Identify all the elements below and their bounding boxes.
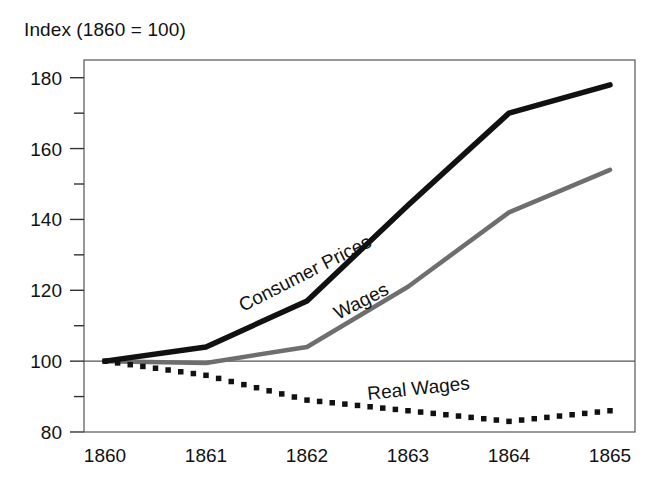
ytick-label-100: 100 bbox=[30, 351, 62, 372]
series-marker bbox=[317, 399, 323, 405]
series-marker bbox=[292, 394, 298, 400]
series-marker bbox=[393, 407, 399, 413]
xtick-label-1861: 1861 bbox=[185, 445, 227, 466]
xtick-label-1860: 1860 bbox=[84, 445, 126, 466]
series-marker bbox=[595, 409, 601, 415]
xtick-label-1865: 1865 bbox=[589, 445, 631, 466]
series-marker bbox=[115, 360, 121, 366]
series-marker bbox=[254, 385, 260, 391]
series-marker bbox=[532, 416, 538, 422]
series-marker bbox=[494, 417, 500, 423]
xtick-label-1862: 1862 bbox=[286, 445, 328, 466]
series-marker bbox=[203, 373, 209, 379]
series-marker bbox=[330, 400, 336, 406]
series-marker bbox=[266, 388, 272, 394]
series-marker bbox=[128, 362, 134, 368]
ytick-label-160: 160 bbox=[30, 139, 62, 160]
series-marker bbox=[304, 397, 310, 403]
series-marker bbox=[405, 408, 411, 414]
series-line-consumer-prices bbox=[105, 85, 610, 361]
series-marker bbox=[279, 391, 285, 397]
series-marker bbox=[380, 405, 386, 411]
series-marker bbox=[569, 412, 575, 418]
series-marker bbox=[544, 415, 550, 421]
xtick-label-1864: 1864 bbox=[488, 445, 531, 466]
chart-page: Index (1860 = 100) 80 100 120 140 160 bbox=[0, 0, 662, 483]
y-axis-minor-ticks bbox=[74, 113, 84, 396]
series-marker bbox=[241, 382, 247, 388]
line-chart: 80 100 120 140 160 180 1860 1861 1862 18… bbox=[0, 0, 662, 483]
series-path bbox=[105, 170, 610, 363]
series-path bbox=[105, 85, 610, 361]
series-marker bbox=[367, 404, 373, 410]
series-marker bbox=[355, 403, 361, 409]
ytick-label-120: 120 bbox=[30, 280, 62, 301]
series-marker bbox=[418, 409, 424, 415]
series-marker bbox=[191, 371, 197, 377]
series-annotation-real-wages: Real Wages bbox=[366, 372, 470, 404]
series-marker bbox=[582, 411, 588, 417]
series-line-wages bbox=[105, 170, 610, 363]
ytick-label-80: 80 bbox=[41, 422, 62, 443]
series-marker bbox=[178, 369, 184, 375]
series-marker bbox=[443, 412, 449, 418]
series-marker bbox=[140, 364, 146, 370]
xtick-label-1863: 1863 bbox=[387, 445, 429, 466]
series-line-real-wages bbox=[102, 358, 613, 424]
series-marker bbox=[165, 367, 171, 373]
series-marker bbox=[519, 417, 525, 423]
series-marker bbox=[342, 401, 348, 407]
series-marker bbox=[456, 413, 462, 419]
ytick-label-180: 180 bbox=[30, 68, 62, 89]
series-marker bbox=[607, 408, 613, 414]
series-marker bbox=[431, 411, 437, 417]
series-marker bbox=[229, 379, 235, 385]
ytick-label-140: 140 bbox=[30, 209, 62, 230]
series-marker bbox=[557, 413, 563, 419]
series-marker bbox=[102, 358, 108, 364]
series-marker bbox=[153, 365, 159, 371]
series-marker bbox=[468, 415, 474, 421]
series-marker bbox=[506, 419, 512, 425]
series-marker bbox=[481, 416, 487, 422]
series-marker bbox=[216, 376, 222, 382]
